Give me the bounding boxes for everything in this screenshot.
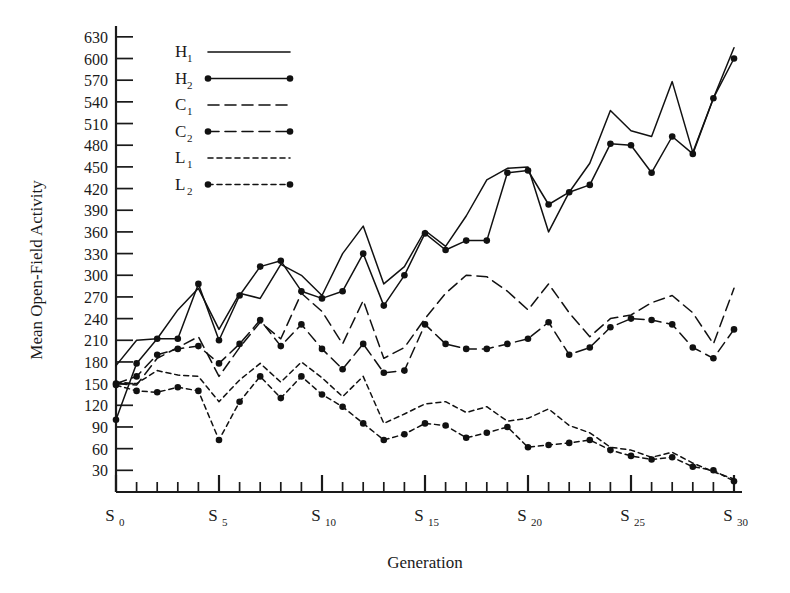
y-tick-label: 390 [84, 202, 108, 219]
data-point-L2 [257, 373, 264, 380]
y-axis-tick-labels: 3060901201501802102402703003303603904204… [84, 29, 108, 479]
y-tick-label: 210 [84, 332, 108, 349]
x-tick-label-subscript: 0 [119, 516, 125, 528]
x-tick-label-subscript: 20 [531, 516, 543, 528]
data-point-L2 [236, 398, 243, 405]
data-point-H2 [545, 201, 552, 208]
legend-label-subscript-H2: 2 [187, 79, 193, 91]
data-point-L2 [648, 456, 655, 463]
data-point-C2 [298, 321, 305, 328]
legend-label-base-H2: H [175, 69, 187, 88]
data-point-C2 [257, 317, 264, 324]
x-tick-label-subscript: 10 [325, 516, 337, 528]
y-axis-title: Mean Open-Field Activity [27, 180, 46, 360]
legend-item-L1[interactable]: L1 [175, 148, 290, 170]
series-line-L2 [116, 376, 734, 481]
data-point-L2 [175, 384, 182, 391]
data-point-C2 [731, 326, 738, 333]
x-axis-title-text: Generation [387, 553, 463, 572]
data-point-L2 [690, 463, 697, 470]
series-line-C1 [116, 275, 734, 385]
data-point-H2 [381, 302, 388, 309]
data-point-C2 [401, 367, 408, 374]
data-point-H2 [236, 292, 243, 299]
x-tick-label: S30 [723, 506, 748, 528]
data-point-C2 [607, 324, 614, 331]
legend-marker-L2 [287, 181, 294, 188]
data-point-L2 [484, 430, 491, 437]
series-C2 [113, 315, 738, 387]
x-tick-label-base: S [414, 506, 423, 525]
data-point-H2 [731, 55, 738, 62]
series-line-C2 [116, 319, 734, 384]
data-point-H2 [442, 247, 449, 254]
data-point-H2 [113, 417, 120, 424]
data-point-H2 [504, 169, 511, 176]
data-point-L2 [422, 420, 429, 427]
legend-marker-L2 [205, 181, 212, 188]
data-point-H2 [484, 237, 491, 244]
x-tick-label-base: S [105, 506, 114, 525]
data-point-L2 [133, 388, 140, 395]
data-point-L2 [339, 403, 346, 410]
data-point-C2 [690, 344, 697, 351]
data-point-L2 [669, 454, 676, 461]
x-tick-label-subscript: 15 [428, 516, 440, 528]
data-point-H2 [422, 230, 429, 237]
y-tick-label: 360 [84, 224, 108, 241]
data-point-C2 [710, 355, 717, 362]
data-point-L2 [216, 437, 223, 444]
legend-item-H2[interactable]: H2 [175, 69, 293, 91]
data-point-H2 [628, 142, 635, 149]
data-point-C2 [442, 341, 449, 348]
chart-figure: Mean Open-Field Activity Generation 3060… [0, 0, 790, 593]
data-point-C2 [545, 319, 552, 326]
data-point-H2 [587, 182, 594, 189]
legend-marker-H2 [287, 75, 294, 82]
data-point-C2 [463, 346, 470, 353]
x-tick-label-subscript: 5 [222, 516, 228, 528]
legend-label-base-C1: C [175, 95, 186, 114]
legend-item-H1[interactable]: H1 [175, 42, 290, 64]
data-point-H2 [175, 336, 182, 343]
data-point-L2 [442, 422, 449, 429]
legend-label-base-H1: H [175, 42, 187, 61]
data-point-L2 [113, 382, 120, 389]
legend-marker-C2 [287, 128, 294, 135]
data-point-C2 [381, 370, 388, 377]
x-tick-label-base: S [517, 506, 526, 525]
y-tick-label: 60 [92, 441, 108, 458]
data-point-C2 [319, 346, 326, 353]
series-line-H2 [116, 59, 734, 420]
data-point-H2 [319, 295, 326, 302]
data-point-H2 [360, 250, 367, 257]
x-tick-label: S20 [517, 506, 542, 528]
legend-item-C2[interactable]: C2 [175, 122, 293, 144]
y-tick-label: 540 [84, 94, 108, 111]
series-H2 [113, 55, 738, 423]
legend-item-C1[interactable]: C1 [175, 95, 290, 117]
data-point-H2 [257, 263, 264, 270]
data-point-C2 [236, 341, 243, 348]
legend-label-subscript-H1: 1 [187, 52, 193, 64]
data-point-C2 [422, 321, 429, 328]
x-tick-label: S10 [311, 506, 336, 528]
series-H1 [116, 48, 734, 366]
data-point-C2 [195, 343, 202, 350]
data-point-L2 [381, 437, 388, 444]
data-point-H2 [401, 272, 408, 279]
data-point-L2 [731, 478, 738, 485]
data-point-H2 [525, 167, 532, 174]
x-tick-label-subscript: 30 [737, 516, 749, 528]
data-point-L2 [710, 467, 717, 474]
data-point-H2 [133, 360, 140, 367]
legend-item-L2[interactable]: L2 [175, 175, 293, 197]
legend-label-base-L1: L [175, 148, 185, 167]
y-tick-label: 510 [84, 116, 108, 133]
y-tick-label: 600 [84, 51, 108, 68]
data-point-L2 [525, 444, 532, 451]
data-point-L2 [154, 389, 161, 396]
x-axis-tick-labels: S0S5S10S15S20S25S30 [105, 506, 748, 528]
data-point-L2 [607, 447, 614, 454]
data-point-C2 [525, 336, 532, 343]
